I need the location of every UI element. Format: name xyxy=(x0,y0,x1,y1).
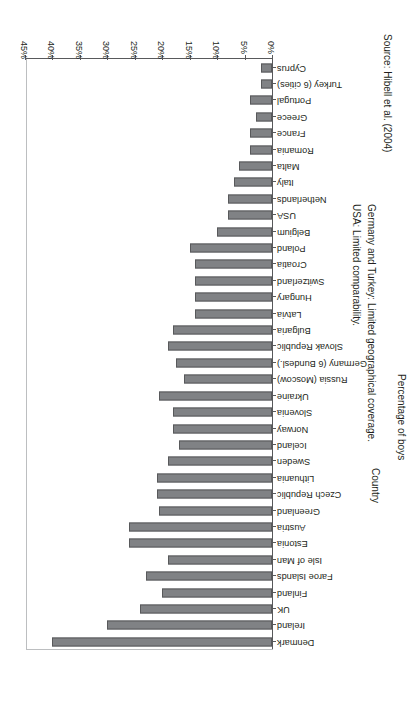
category-axis-tick xyxy=(272,345,276,346)
bar xyxy=(129,539,272,548)
category-axis-tick xyxy=(272,542,276,543)
category-axis-tick xyxy=(272,477,276,478)
bar-row: Norway xyxy=(26,420,272,436)
bar xyxy=(250,145,272,154)
category-label: Belgium xyxy=(277,227,310,236)
category-label: Iceland xyxy=(277,440,307,449)
bar-row: UK xyxy=(26,601,272,617)
bar-row: Malta xyxy=(26,158,272,174)
category-axis-tick xyxy=(272,83,276,84)
category-label: Germany (6 Bundesl.) xyxy=(277,358,367,367)
category-label: Cyprus xyxy=(277,63,306,72)
bar xyxy=(195,260,272,269)
category-axis-tick xyxy=(272,132,276,133)
bar xyxy=(173,424,272,433)
comparability-note: USA: Limited comparability. xyxy=(351,204,362,326)
bar-row: France xyxy=(26,125,272,141)
category-axis-tick xyxy=(272,592,276,593)
category-label: Austria xyxy=(277,522,306,531)
bar-row: Russia (Moscow) xyxy=(26,371,272,387)
category-label: Italy xyxy=(277,178,294,187)
category-axis-tick xyxy=(272,378,276,379)
category-label: Slovak Republic xyxy=(277,342,343,351)
bar xyxy=(195,309,272,318)
bar-row: Turkey (6 cities) xyxy=(26,76,272,92)
bar-row: Bulgaria xyxy=(26,322,272,338)
value-axis-tick-label: 10% xyxy=(211,41,221,59)
bar xyxy=(157,490,272,499)
category-axis-tick xyxy=(272,329,276,330)
category-axis-tick xyxy=(272,493,276,494)
category-axis-tick xyxy=(272,165,276,166)
bar xyxy=(162,588,272,597)
bar-row: Denmark xyxy=(26,634,272,650)
bar xyxy=(176,358,272,367)
bar-row: Cyprus xyxy=(26,59,272,75)
category-label: Norway xyxy=(277,424,308,433)
value-axis-tick-label: 25% xyxy=(129,41,139,59)
category-axis-tick xyxy=(272,526,276,527)
value-axis-tick-label: 20% xyxy=(156,41,166,59)
category-axis-tick xyxy=(272,198,276,199)
rotated-figure-wrapper: Source: Hibell et al. (2004) Germany and… xyxy=(0,0,415,704)
category-axis-tick xyxy=(272,263,276,264)
bar xyxy=(52,637,272,646)
category-label: Greece xyxy=(277,112,307,121)
bar xyxy=(159,506,272,515)
bar-row: Greenland xyxy=(26,502,272,518)
category-label: Lithuania xyxy=(277,473,314,482)
category-label: Croatia xyxy=(277,260,307,269)
value-axis-tick-label: 15% xyxy=(184,41,194,59)
category-label: Sweden xyxy=(277,457,310,466)
bar-row: Estonia xyxy=(26,535,272,551)
category-label: Hungary xyxy=(277,293,312,302)
category-label: Ukraine xyxy=(277,391,309,400)
bar xyxy=(146,572,272,581)
bar-row: Switzerland xyxy=(26,273,272,289)
category-axis-tick xyxy=(272,313,276,314)
bar-row: USA xyxy=(26,207,272,223)
category-label: Romania xyxy=(277,145,314,154)
coverage-note: Germany and Turkey: Limited geographical… xyxy=(366,204,377,442)
category-axis-tick xyxy=(272,247,276,248)
bar xyxy=(261,79,272,88)
bar-row: Austria xyxy=(26,519,272,535)
bar-row: Iceland xyxy=(26,437,272,453)
bar-row: Sweden xyxy=(26,453,272,469)
bar xyxy=(234,178,272,187)
bar-row: Italy xyxy=(26,174,272,190)
bar xyxy=(107,621,272,630)
category-axis-tick xyxy=(272,624,276,625)
value-axis-tick-label: 5% xyxy=(239,41,249,54)
figure-notes: Source: Hibell et al. (2004) Germany and… xyxy=(355,0,415,704)
category-axis-tick xyxy=(272,641,276,642)
bar-row: Finland xyxy=(26,584,272,600)
category-axis-tick xyxy=(272,559,276,560)
bar xyxy=(250,129,272,138)
bar xyxy=(228,211,272,220)
category-axis-tick xyxy=(272,608,276,609)
bar xyxy=(184,375,272,384)
category-label: Bulgaria xyxy=(277,325,311,334)
bar xyxy=(250,96,272,105)
bar-row: Lithuania xyxy=(26,470,272,486)
category-axis-tick xyxy=(272,444,276,445)
category-axis-tick xyxy=(272,395,276,396)
category-label: Slovenia xyxy=(277,408,312,417)
category-axis-tick xyxy=(272,181,276,182)
category-label: Czech Republic xyxy=(277,490,341,499)
bar-row: Slovak Republic xyxy=(26,338,272,354)
bar xyxy=(179,440,272,449)
category-axis-tick xyxy=(272,362,276,363)
bar-row: Romania xyxy=(26,141,272,157)
category-label: Estonia xyxy=(277,539,308,548)
value-axis-tick-label: 35% xyxy=(74,41,84,59)
bar-row: Hungary xyxy=(26,289,272,305)
bar xyxy=(129,522,272,531)
category-label: Latvia xyxy=(277,309,302,318)
bar-row: Czech Republic xyxy=(26,486,272,502)
value-axis-title: Percentage of boys xyxy=(396,374,407,460)
bar-row: Croatia xyxy=(26,256,272,272)
category-label: UK xyxy=(277,604,290,613)
category-axis-tick xyxy=(272,575,276,576)
